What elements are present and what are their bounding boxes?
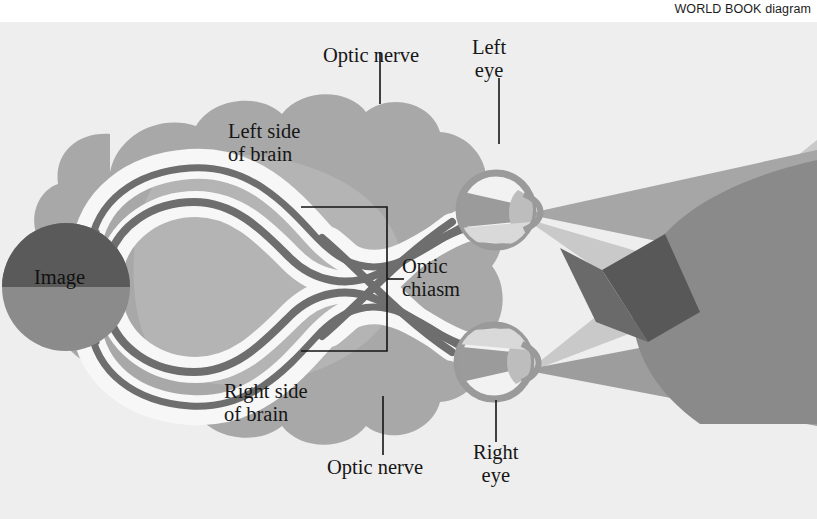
label-right-side-of-brain: Right side of brain <box>224 380 308 426</box>
credit-line: WORLD BOOK diagram <box>674 2 811 16</box>
diagram-figure: Optic nerve Optic nerve Left eye Right e… <box>0 22 817 519</box>
label-optic-nerve-top: Optic nerve <box>323 44 419 67</box>
label-optic-chiasm: Optic chiasm <box>402 255 460 301</box>
label-left-eye: Left eye <box>472 36 506 82</box>
label-right-eye: Right eye <box>473 441 519 487</box>
label-image: Image <box>34 266 85 289</box>
right-eye <box>453 325 539 399</box>
left-eye <box>455 173 541 247</box>
label-left-side-of-brain: Left side of brain <box>228 120 300 166</box>
diagram-page: WORLD BOOK diagram <box>0 0 817 519</box>
visual-field-cones <box>524 140 817 426</box>
label-optic-nerve-bottom: Optic nerve <box>327 456 423 479</box>
